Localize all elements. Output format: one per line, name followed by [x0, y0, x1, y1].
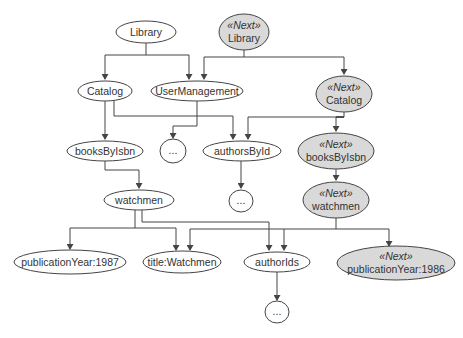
stereotype-label: «Next» — [319, 138, 352, 150]
node-next-booksbyisbn[interactable]: «Next» booksByIsbn — [298, 133, 374, 169]
stereotype-label: «Next» — [319, 187, 352, 199]
diagram-canvas: Library «Next» Library Catalog UserManag… — [0, 0, 463, 338]
stereotype-label: «Next» — [379, 250, 412, 262]
node-library[interactable]: Library — [116, 21, 176, 43]
edge-nextwatchmen-pubyear1986 — [336, 229, 389, 246]
edge-library-usermanagement — [146, 55, 189, 79]
node-label: title:Watchmen — [147, 256, 216, 268]
node-booksbyisbn[interactable]: booksByIsbn — [67, 141, 143, 161]
node-label: ... — [237, 194, 246, 206]
node-label: booksByIsbn — [75, 145, 135, 157]
edge-watchmen-pubyear1987 — [70, 210, 135, 249]
node-catalog[interactable]: Catalog — [78, 81, 132, 101]
node-label: ... — [169, 144, 178, 156]
node-label: authorsById — [214, 145, 270, 157]
node-next-library[interactable]: «Next» Library — [219, 14, 269, 50]
node-label: authorIds — [255, 256, 299, 268]
node-title[interactable]: title:Watchmen — [143, 251, 221, 273]
edge-watchmen-authorids — [142, 210, 269, 250]
node-next-catalog[interactable]: «Next» Catalog — [316, 76, 372, 112]
edge-library-catalog — [105, 43, 146, 79]
node-watchmen[interactable]: watchmen — [104, 190, 174, 210]
node-label: watchmen — [114, 194, 163, 206]
node-authorids[interactable]: authorIds — [244, 252, 310, 272]
edge-booksbyisbn-watchmen — [105, 161, 139, 188]
node-label: ... — [273, 305, 282, 317]
node-label: Library — [130, 26, 163, 38]
node-ellipsis-authorsbyid[interactable]: ... — [229, 190, 253, 212]
node-next-pubyear-1986[interactable]: «Next» publicationYear:1986 — [337, 246, 455, 280]
node-usermanagement[interactable]: UserManagement — [151, 81, 243, 101]
node-ellipsis-usermanagement[interactable]: ... — [160, 139, 186, 163]
node-label: Catalog — [326, 94, 362, 106]
node-label: booksByIsbn — [306, 151, 366, 163]
stereotype-label: «Next» — [227, 19, 260, 31]
node-ellipsis-authorids[interactable]: ... — [265, 301, 289, 323]
node-pubyear-1987[interactable]: publicationYear:1987 — [14, 250, 126, 274]
edge-nextcatalog-nextbooksbyisbn — [336, 117, 344, 131]
edge-nextwatchmen-title — [190, 218, 336, 250]
node-label: watchmen — [311, 200, 360, 212]
edge-nextlibrary-nextcatalog — [244, 57, 344, 74]
edge-watchmen-title — [135, 228, 176, 250]
node-label: publicationYear:1987 — [21, 256, 119, 268]
stereotype-label: «Next» — [327, 81, 360, 93]
node-label: publicationYear:1986 — [347, 263, 445, 275]
node-label: Library — [228, 32, 261, 44]
edge-usermanagement-ellipsis — [173, 101, 197, 138]
node-label: UserManagement — [155, 85, 239, 97]
node-next-watchmen[interactable]: «Next» watchmen — [303, 182, 369, 218]
node-label: Catalog — [87, 85, 123, 97]
edge-nextlibrary-usermanagement — [204, 50, 244, 79]
node-authorsbyid[interactable]: authorsById — [203, 141, 281, 161]
